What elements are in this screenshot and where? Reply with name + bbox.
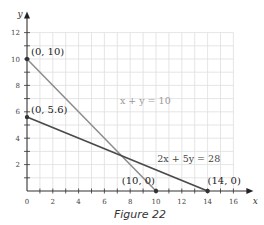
equation-label: 2x + 5y = 28	[157, 153, 220, 164]
chart: 024681012141624681012xyx + y = 102x + 5y…	[0, 0, 264, 225]
x-tick-label: 2	[51, 198, 55, 206]
point-label: (0, 10)	[31, 46, 64, 57]
y-tick-label: 10	[11, 56, 20, 64]
x-axis-arrow-icon	[246, 188, 253, 194]
labels: 024681012141624681012xyx + y = 102x + 5y…	[11, 9, 258, 206]
figure-caption: Figure 22	[0, 208, 264, 221]
y-axis-arrow-icon	[24, 12, 30, 19]
y-tick-label: 8	[16, 82, 20, 90]
point-marker	[25, 57, 29, 61]
y-tick-label: 2	[16, 161, 20, 169]
point-label: (0, 5.6)	[31, 104, 68, 115]
x-tick-label: 8	[128, 198, 132, 206]
point-marker	[205, 189, 209, 193]
y-axis-label: y	[16, 9, 23, 19]
point-label: (14, 0)	[208, 175, 241, 186]
y-tick-label: 6	[16, 108, 21, 116]
x-tick-label: 10	[152, 198, 161, 206]
y-tick-label: 12	[11, 29, 20, 37]
point-marker	[25, 115, 29, 119]
x-tick-label: 16	[229, 198, 238, 206]
x-tick-label: 0	[25, 198, 29, 206]
x-tick-label: 6	[102, 198, 107, 206]
point-label: (10, 0)	[122, 175, 155, 186]
equation-label: x + y = 10	[120, 95, 171, 106]
point-marker	[154, 189, 158, 193]
x-tick-label: 4	[76, 198, 81, 206]
y-tick-label: 4	[16, 135, 21, 143]
x-tick-label: 12	[177, 198, 186, 206]
x-axis-label: x	[253, 196, 258, 206]
x-tick-label: 14	[203, 198, 212, 206]
